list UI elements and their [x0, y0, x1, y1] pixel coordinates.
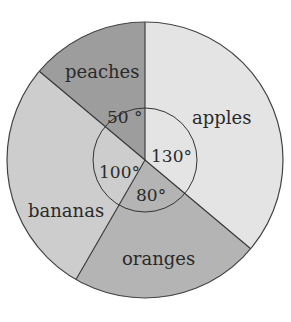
angle-peaches: 50 ° — [107, 107, 143, 127]
label-peaches: peaches — [65, 61, 139, 82]
label-oranges: oranges — [122, 248, 195, 269]
label-bananas: bananas — [28, 200, 104, 221]
angle-oranges: 80° — [136, 185, 166, 205]
angle-bananas: 100° — [99, 162, 140, 182]
angle-apples: 130° — [151, 146, 192, 166]
pie-chart-svg: apples oranges bananas peaches 130° 80° … — [0, 0, 291, 322]
label-apples: apples — [192, 107, 251, 128]
